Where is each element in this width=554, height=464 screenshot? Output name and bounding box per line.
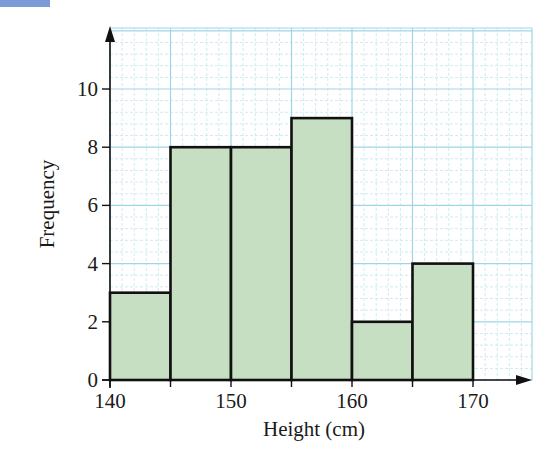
y-tick-label: 2 xyxy=(88,310,99,334)
x-tick-label: 150 xyxy=(215,389,247,413)
y-axis-title: Frequency xyxy=(35,159,59,248)
histogram-bar xyxy=(352,322,413,380)
y-tick-label: 10 xyxy=(77,77,98,101)
histogram-chart: 1401501601700246810 Height (cm) Frequenc… xyxy=(0,0,554,464)
y-tick-label: 6 xyxy=(88,193,99,217)
y-tick-label: 8 xyxy=(88,135,99,159)
histogram-bar xyxy=(413,264,474,380)
histogram-bars xyxy=(110,118,473,380)
histogram-bar xyxy=(231,147,292,380)
x-axis-arrow-icon xyxy=(516,375,532,385)
y-tick-label: 4 xyxy=(88,252,99,276)
histogram-bar xyxy=(292,118,353,380)
x-tick-label: 140 xyxy=(94,389,126,413)
histogram-bar xyxy=(171,147,232,380)
x-tick-label: 170 xyxy=(457,389,489,413)
x-tick-label: 160 xyxy=(336,389,368,413)
histogram-bar xyxy=(110,293,171,380)
y-tick-label: 0 xyxy=(88,368,99,392)
x-axis-title: Height (cm) xyxy=(263,417,365,441)
